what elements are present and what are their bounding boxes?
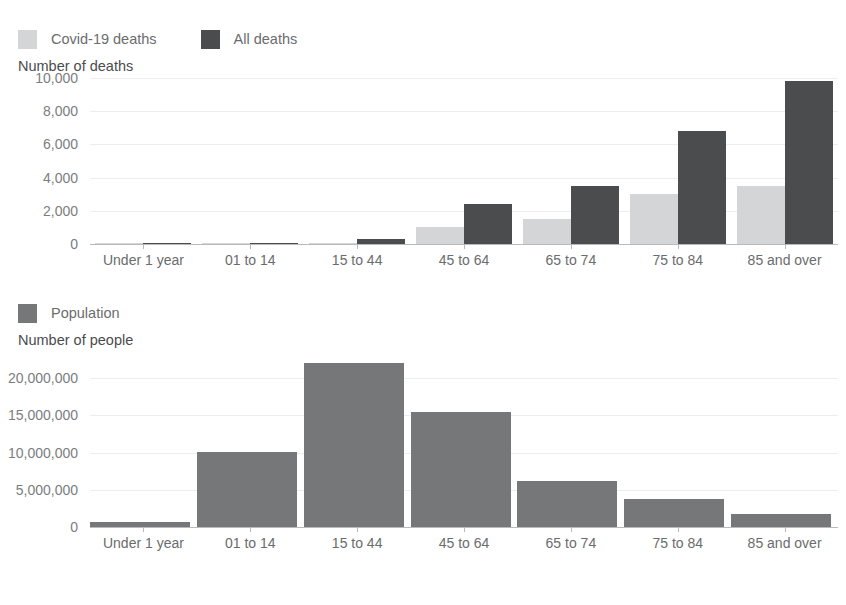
population-y-tick: 0 bbox=[70, 519, 78, 535]
bar-covid-19-deaths-15-to-44[interactable] bbox=[309, 243, 357, 244]
bar-all-deaths-65-to-74[interactable] bbox=[571, 186, 619, 244]
population-chart-panel: Population Number of people 05,000,00010… bbox=[0, 300, 846, 600]
bar-covid-19-deaths-under-1-year[interactable] bbox=[95, 243, 143, 244]
deaths-y-tick: 6,000 bbox=[43, 136, 78, 152]
legend-item-population[interactable]: Population bbox=[18, 304, 120, 323]
bar-population-45-to-64[interactable] bbox=[411, 412, 511, 527]
population-x-label: 45 to 64 bbox=[411, 535, 518, 551]
population-bars bbox=[90, 352, 838, 527]
bar-covid-19-deaths-75-to-84[interactable] bbox=[630, 194, 678, 244]
legend-item-all-deaths[interactable]: All deaths bbox=[201, 30, 298, 49]
bar-group bbox=[90, 78, 197, 244]
population-x-label: 15 to 44 bbox=[304, 535, 411, 551]
bar-group bbox=[411, 352, 518, 527]
population-plot bbox=[90, 352, 838, 527]
deaths-x-label: 85 and over bbox=[731, 252, 838, 268]
legend-label-all-deaths: All deaths bbox=[234, 31, 298, 47]
bar-group bbox=[90, 352, 197, 527]
population-y-tick: 15,000,000 bbox=[8, 407, 78, 423]
bar-population-65-to-74[interactable] bbox=[517, 481, 617, 527]
bar-group bbox=[517, 352, 624, 527]
bar-group bbox=[197, 352, 304, 527]
bar-population-15-to-44[interactable] bbox=[304, 363, 404, 527]
population-x-label: 85 and over bbox=[731, 535, 838, 551]
population-y-tick: 5,000,000 bbox=[16, 482, 78, 498]
population-y-tick: 20,000,000 bbox=[8, 370, 78, 386]
bar-group bbox=[197, 78, 304, 244]
population-y-axis: 05,000,00010,000,00015,000,00020,000,000 bbox=[0, 352, 86, 527]
bar-group bbox=[624, 78, 731, 244]
bar-covid-19-deaths-65-to-74[interactable] bbox=[523, 219, 571, 244]
deaths-y-axis: 02,0004,0006,0008,00010,000 bbox=[0, 78, 86, 244]
deaths-y-tick: 2,000 bbox=[43, 203, 78, 219]
legend-item-covid-deaths[interactable]: Covid-19 deaths bbox=[18, 30, 157, 49]
bar-all-deaths-45-to-64[interactable] bbox=[464, 204, 512, 244]
bar-all-deaths-15-to-44[interactable] bbox=[357, 239, 405, 244]
bar-group bbox=[304, 352, 411, 527]
population-axis-title: Number of people bbox=[0, 332, 846, 348]
deaths-x-axis: Under 1 year01 to 1415 to 4445 to 6465 t… bbox=[90, 252, 838, 268]
legend-label-covid-deaths: Covid-19 deaths bbox=[51, 31, 157, 47]
deaths-y-tick: 4,000 bbox=[43, 170, 78, 186]
deaths-x-label: 15 to 44 bbox=[304, 252, 411, 268]
population-swatch bbox=[18, 304, 37, 323]
population-plot-area: 05,000,00010,000,00015,000,00020,000,000… bbox=[0, 352, 846, 553]
bar-group bbox=[731, 352, 838, 527]
population-x-label: 75 to 84 bbox=[624, 535, 731, 551]
deaths-y-tick: 10,000 bbox=[35, 70, 78, 86]
deaths-plot bbox=[90, 78, 838, 244]
deaths-chart-panel: Covid-19 deaths All deaths Number of dea… bbox=[0, 26, 846, 308]
bar-covid-19-deaths-01-to-14[interactable] bbox=[202, 243, 250, 244]
population-x-axis: Under 1 year01 to 1415 to 4445 to 6465 t… bbox=[90, 535, 838, 551]
legend-label-population: Population bbox=[51, 305, 120, 321]
population-legend: Population bbox=[0, 300, 846, 326]
population-y-tick: 10,000,000 bbox=[8, 445, 78, 461]
bar-population-85-and-over[interactable] bbox=[731, 514, 831, 527]
deaths-legend: Covid-19 deaths All deaths bbox=[0, 26, 846, 52]
deaths-x-label: 01 to 14 bbox=[197, 252, 304, 268]
deaths-bars bbox=[90, 78, 838, 244]
bar-group bbox=[731, 78, 838, 244]
deaths-y-tick: 8,000 bbox=[43, 103, 78, 119]
bar-population-75-to-84[interactable] bbox=[624, 499, 724, 527]
deaths-axis-title: Number of deaths bbox=[0, 58, 846, 74]
bar-group bbox=[304, 78, 411, 244]
all-deaths-swatch bbox=[201, 30, 220, 49]
bar-group bbox=[517, 78, 624, 244]
bar-all-deaths-01-to-14[interactable] bbox=[250, 243, 298, 244]
bar-group bbox=[411, 78, 518, 244]
bar-population-under-1-year[interactable] bbox=[90, 522, 190, 527]
population-x-label: 65 to 74 bbox=[517, 535, 624, 551]
bar-covid-19-deaths-85-and-over[interactable] bbox=[737, 186, 785, 244]
deaths-x-label: 45 to 64 bbox=[411, 252, 518, 268]
deaths-x-label: 75 to 84 bbox=[624, 252, 731, 268]
deaths-x-label: 65 to 74 bbox=[517, 252, 624, 268]
bar-all-deaths-75-to-84[interactable] bbox=[678, 131, 726, 244]
deaths-y-tick: 0 bbox=[70, 236, 78, 252]
bar-all-deaths-85-and-over[interactable] bbox=[785, 81, 833, 244]
population-x-label: Under 1 year bbox=[90, 535, 197, 551]
covid-deaths-swatch bbox=[18, 30, 37, 49]
deaths-plot-area: 02,0004,0006,0008,00010,000Under 1 year0… bbox=[0, 78, 846, 270]
bar-group bbox=[624, 352, 731, 527]
bar-population-01-to-14[interactable] bbox=[197, 452, 297, 527]
bar-covid-19-deaths-45-to-64[interactable] bbox=[416, 227, 464, 244]
deaths-x-label: Under 1 year bbox=[90, 252, 197, 268]
bar-all-deaths-under-1-year[interactable] bbox=[143, 243, 191, 244]
population-x-label: 01 to 14 bbox=[197, 535, 304, 551]
